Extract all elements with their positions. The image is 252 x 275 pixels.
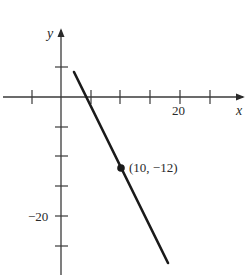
point-marker — [117, 164, 125, 172]
point-label: (10, −12) — [129, 160, 178, 175]
chart: y x 20 −20 (10, −12) — [0, 0, 252, 275]
x-axis-label: x — [235, 103, 243, 118]
y-axis-label: y — [45, 26, 54, 41]
y-tick-label-neg20: −20 — [28, 209, 48, 224]
x-tick-label-20: 20 — [172, 103, 185, 118]
